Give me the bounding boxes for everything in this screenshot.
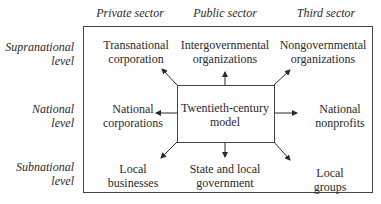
column-header-third: Third sector — [271, 6, 381, 21]
cell-local-groups: Local groups — [275, 166, 381, 194]
row-header-national: National level — [0, 102, 74, 130]
center-twentieth-century-model: Twentieth-century model — [170, 101, 280, 129]
arrow-top-left — [162, 69, 177, 85]
cell-intergovernmental-organizations: Intergovernmental organizations — [170, 38, 280, 66]
cell-national-nonprofits: National nonprofits — [285, 102, 381, 130]
cell-nongovernmental-organizations: Nongovernmental organizations — [268, 38, 378, 66]
column-header-public: Public sector — [170, 6, 280, 21]
arrow-bot-left — [161, 142, 177, 158]
column-header-private: Private sector — [75, 6, 185, 21]
row-header-subnational: Subnational level — [0, 160, 74, 188]
arrow-top-right — [274, 70, 290, 85]
arrow-bot-right — [274, 142, 290, 160]
row-header-supranational: Supranational level — [0, 40, 74, 68]
cell-state-and-local-government: State and local government — [170, 162, 280, 190]
